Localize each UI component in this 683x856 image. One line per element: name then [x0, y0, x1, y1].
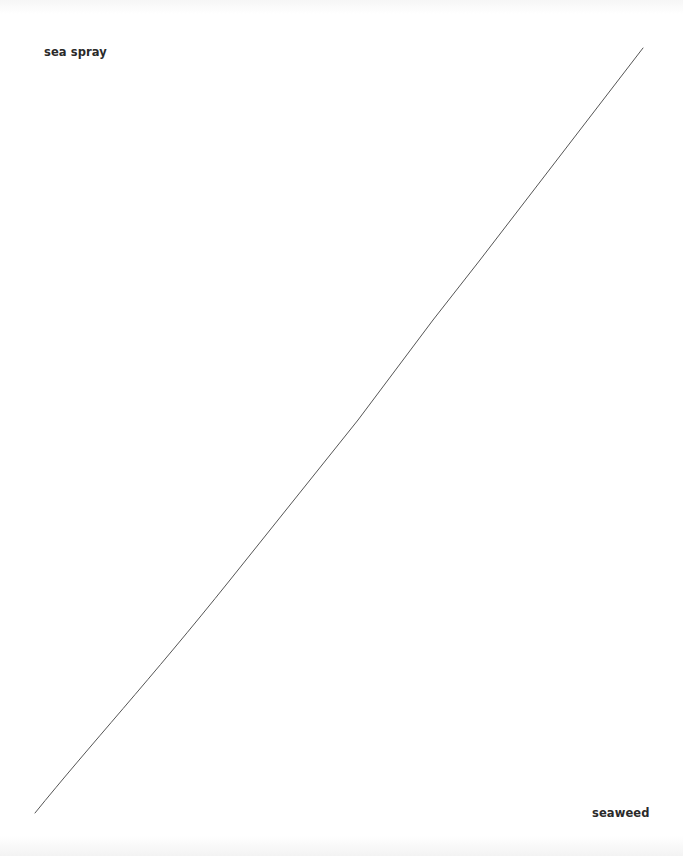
node-label-seaweed: seaweed — [592, 808, 650, 820]
node-label-sea-spray: sea spray — [44, 47, 107, 59]
diagram-canvas: sea spray seaweed — [0, 0, 683, 856]
connector-line — [0, 0, 683, 856]
connector-path — [35, 48, 643, 813]
